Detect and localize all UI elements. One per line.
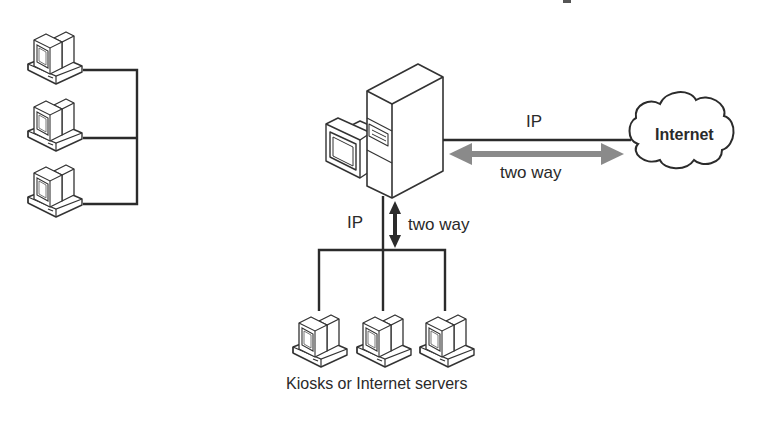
internet-label: Internet [655, 126, 714, 144]
network-diagram [0, 0, 780, 431]
protocol-label-kiosks: IP [347, 213, 363, 233]
two-way-arrow-horizontal-icon [449, 143, 624, 165]
direction-label-internet: two way [500, 163, 561, 183]
desktop-computer-icon [28, 99, 82, 151]
desktop-computer-icon [293, 315, 347, 367]
desktop-computer-icon [357, 315, 411, 367]
desktop-computer-icon [28, 165, 82, 217]
kiosk-computers [293, 315, 474, 367]
desktop-computer-icon [420, 315, 474, 367]
kiosks-caption: Kiosks or Internet servers [286, 375, 467, 393]
monitor-icon [326, 118, 369, 178]
kiosk-bus-lines [319, 250, 445, 311]
server-internet-link [443, 140, 631, 165]
cropped-text-fragment [563, 0, 571, 3]
direction-label-kiosks: two way [408, 215, 469, 235]
two-way-arrow-vertical-icon [389, 201, 401, 248]
server-node [326, 64, 443, 198]
server-kiosk-link [319, 196, 445, 311]
left-bus-lines [83, 70, 137, 204]
left-workstations [28, 32, 137, 217]
server-tower-icon [367, 64, 443, 198]
protocol-label-internet: IP [526, 112, 542, 132]
desktop-computer-icon [28, 32, 82, 84]
